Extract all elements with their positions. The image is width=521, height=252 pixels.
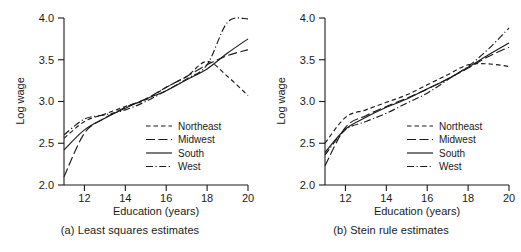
plot-area-b: 2.02.53.03.54.0 1214161820 NortheastMidw…	[261, 0, 521, 222]
y-tick-labels-b: 2.02.53.03.54.0	[300, 12, 315, 191]
x-tick-label-18: 18	[462, 192, 474, 204]
x-tick-label-14: 14	[380, 192, 392, 204]
x-tick-label-18: 18	[201, 192, 213, 204]
x-tick-marks-b	[345, 185, 509, 191]
y-tick-label-2: 2.0	[300, 179, 315, 191]
plot-area-a: 2.02.53.03.54.0 1214161820 NortheastMidw…	[0, 0, 260, 222]
panel-caption-a: (a) Least squares estimates	[0, 224, 260, 236]
y-tick-marks-a	[58, 18, 64, 185]
legend-b: NortheastMidwestSouthWest	[407, 121, 483, 173]
legend-label-northeast: Northeast	[178, 121, 222, 132]
x-tick-label-20: 20	[503, 192, 515, 204]
y-tick-label-3.5: 3.5	[300, 54, 315, 66]
series-line-west	[325, 28, 509, 155]
x-tick-label-16: 16	[160, 192, 172, 204]
axes-a	[58, 18, 248, 191]
x-tick-labels-b: 1214161820	[339, 192, 515, 204]
legend-label-midwest: Midwest	[178, 134, 215, 145]
legend-label-west: West	[439, 161, 462, 172]
x-tick-label-14: 14	[119, 192, 131, 204]
legend-label-northeast: Northeast	[439, 121, 483, 132]
y-axis-title-b: Log wage	[275, 77, 287, 125]
panel-least-squares: 2.02.53.03.54.0 1214161820 NortheastMidw…	[0, 0, 260, 252]
y-tick-label-3.5: 3.5	[39, 54, 54, 66]
legend-label-south: South	[439, 148, 465, 159]
panel-caption-b: (b) Stein rule estimates	[261, 224, 521, 236]
legend-label-south: South	[178, 148, 204, 159]
x-axis-title-b: Education (years)	[374, 205, 460, 217]
x-tick-label-12: 12	[339, 192, 351, 204]
y-tick-label-4: 4.0	[300, 12, 315, 24]
x-tick-labels-a: 1214161820	[78, 192, 254, 204]
series-group-b	[325, 28, 509, 166]
series-line-midwest	[64, 50, 248, 177]
x-tick-label-16: 16	[421, 192, 433, 204]
legend-label-midwest: Midwest	[439, 134, 476, 145]
x-axis-title-a: Education (years)	[113, 205, 199, 217]
axes-b	[319, 18, 509, 191]
y-tick-label-3: 3.0	[300, 95, 315, 107]
y-tick-label-4: 4.0	[39, 12, 54, 24]
series-line-west	[64, 18, 248, 135]
y-tick-label-3: 3.0	[39, 95, 54, 107]
panel-stein-rule: 2.02.53.03.54.0 1214161820 NortheastMidw…	[261, 0, 521, 252]
y-tick-label-2.5: 2.5	[39, 137, 54, 149]
series-line-midwest	[325, 47, 509, 166]
y-tick-labels-a: 2.02.53.03.54.0	[39, 12, 54, 191]
legend-a: NortheastMidwestSouthWest	[146, 121, 222, 173]
x-tick-marks-a	[84, 185, 248, 191]
figure-two-panel-log-wage: 2.02.53.03.54.0 1214161820 NortheastMidw…	[0, 0, 521, 252]
x-tick-label-20: 20	[242, 192, 254, 204]
y-tick-label-2.5: 2.5	[300, 137, 315, 149]
x-tick-label-12: 12	[78, 192, 90, 204]
y-tick-label-2: 2.0	[39, 179, 54, 191]
legend-label-west: West	[178, 161, 201, 172]
y-tick-marks-b	[319, 18, 325, 185]
y-axis-title-a: Log wage	[14, 77, 26, 125]
series-line-south	[64, 39, 248, 150]
